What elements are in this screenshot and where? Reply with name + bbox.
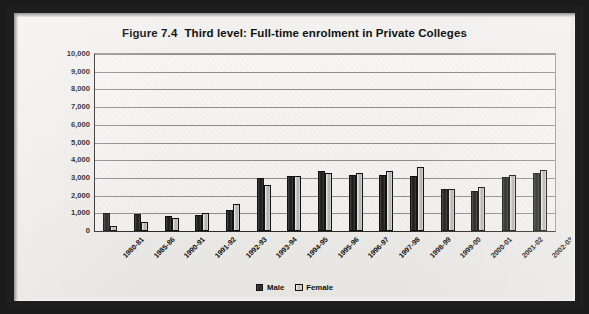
- bar-female-1985-86: [141, 222, 148, 231]
- bar-female-1990-91: [172, 218, 179, 231]
- bar-male-1993-94: [257, 178, 264, 231]
- bar-group: [463, 54, 494, 231]
- x-axis-tick-label: 1992-93: [243, 235, 268, 260]
- y-axis-tick-label: 8,000: [71, 84, 90, 93]
- legend-swatch-male: [256, 284, 264, 292]
- y-axis-tick-label: 7,000: [71, 102, 90, 111]
- bar-female-1999-00: [448, 189, 455, 231]
- bar-female-1998-99: [417, 167, 424, 231]
- bar-group: [494, 54, 525, 231]
- x-axis-tick-label: 1993-94: [274, 235, 299, 260]
- bar-group: [218, 54, 249, 231]
- bar-male-1990-91: [165, 216, 172, 231]
- y-axis-tick-label: 6,000: [71, 119, 90, 128]
- plot-area: [94, 53, 556, 232]
- y-axis-tick-label: 5,000: [71, 137, 90, 146]
- y-axis-tick-label: 4,000: [71, 155, 90, 164]
- bar-male-1996-97: [349, 175, 356, 231]
- x-axis-tick-label: 1994-95: [305, 235, 330, 260]
- bar-group: [371, 54, 402, 231]
- bar-male-1995-96: [318, 171, 325, 231]
- bar-male-1991-92: [195, 215, 202, 231]
- x-axis-tick-label: 2002-03: [550, 235, 571, 260]
- y-axis-tick-label: 3,000: [71, 172, 90, 181]
- figure-inner: Figure 7.4Third level: Full-time enrolme…: [18, 17, 571, 297]
- x-axis-tick-label: 1985-86: [151, 235, 176, 260]
- bar-group: [340, 54, 371, 231]
- x-axis-tick-label: 1990-91: [182, 235, 207, 260]
- legend-item-male: Male: [256, 283, 284, 292]
- bar-female-1980-81: [110, 226, 117, 231]
- chart-legend: Male Female: [18, 283, 571, 292]
- bar-group: [126, 54, 157, 231]
- bar-group: [524, 54, 555, 231]
- legend-label-male: Male: [267, 283, 284, 292]
- figure-number: Figure 7.4: [122, 27, 177, 39]
- page-title: Figure 7.4Third level: Full-time enrolme…: [18, 27, 571, 39]
- bar-female-2000-01: [478, 187, 485, 231]
- bar-female-1996-97: [356, 173, 363, 231]
- screenshot-page: Figure 7.4Third level: Full-time enrolme…: [0, 0, 589, 314]
- x-axis-tick-label: 1980-81: [121, 235, 146, 260]
- y-axis-tick-label: 2,000: [71, 190, 90, 199]
- bar-female-2002-03: [540, 170, 547, 231]
- bar-female-1995-96: [325, 173, 332, 231]
- bar-group: [248, 54, 279, 231]
- bar-male-2000-01: [471, 191, 478, 231]
- legend-item-female: Female: [295, 283, 333, 292]
- y-axis-tick-label: 1,000: [71, 208, 90, 217]
- bar-series-group: [95, 54, 555, 231]
- x-axis-tick-label: 2000-01: [489, 235, 514, 260]
- figure-sheet: Figure 7.4Third level: Full-time enrolme…: [14, 13, 575, 301]
- x-axis-tick-label: 1991-92: [213, 235, 238, 260]
- bar-male-1998-99: [410, 176, 417, 231]
- bar-group: [279, 54, 310, 231]
- bar-male-1999-00: [441, 189, 448, 231]
- bar-male-1994-95: [287, 176, 294, 231]
- bar-group: [432, 54, 463, 231]
- bar-male-2002-03: [533, 173, 540, 231]
- bar-male-1992-93: [226, 210, 233, 231]
- y-axis-tick-label: 10,000: [67, 49, 90, 58]
- chart-container: 10,0009,0008,0007,0006,0005,0004,0003,00…: [18, 47, 571, 297]
- bar-group: [95, 54, 126, 231]
- y-axis-tick-label: 9,000: [71, 66, 90, 75]
- bar-male-1980-81: [103, 213, 110, 231]
- x-axis-tick-label: 1995-96: [335, 235, 360, 260]
- bar-male-1997-98: [379, 175, 386, 231]
- x-axis-tick-label: 1999-00: [458, 235, 483, 260]
- bar-female-1993-94: [264, 185, 271, 231]
- y-axis-labels: 10,0009,0008,0007,0006,0005,0004,0003,00…: [18, 53, 90, 231]
- bar-female-1991-92: [202, 213, 209, 231]
- bar-group: [310, 54, 341, 231]
- x-axis-tick-label: 1997-98: [397, 235, 422, 260]
- y-axis-tick-label: 0: [86, 226, 90, 235]
- legend-label-female: Female: [306, 283, 333, 292]
- x-axis-labels: 1980-811985-861990-911991-921992-931993-…: [94, 235, 554, 287]
- bar-male-2001-02: [502, 177, 509, 231]
- x-axis-tick-label: 2001-02: [519, 235, 544, 260]
- x-axis-tick-label: 1998-99: [427, 235, 452, 260]
- x-axis-tick-label: 1996-97: [366, 235, 391, 260]
- bar-female-2001-02: [509, 175, 516, 231]
- figure-caption: Third level: Full-time enrolment in Priv…: [184, 27, 467, 39]
- legend-swatch-female: [295, 284, 303, 292]
- bar-female-1997-98: [386, 171, 393, 231]
- bar-female-1994-95: [294, 176, 301, 231]
- bar-female-1992-93: [233, 204, 240, 231]
- bar-group: [156, 54, 187, 231]
- bar-group: [402, 54, 433, 231]
- bar-male-1985-86: [134, 214, 141, 231]
- bar-group: [187, 54, 218, 231]
